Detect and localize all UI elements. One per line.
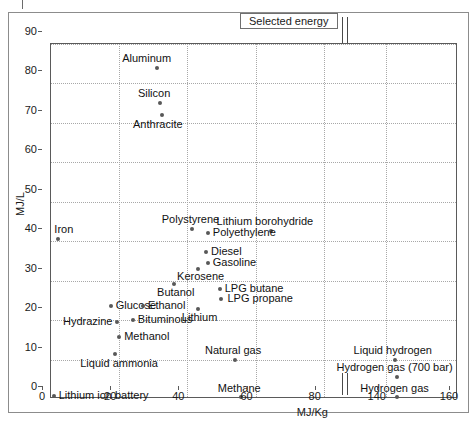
data-point[interactable] (113, 352, 117, 356)
y-axis-label: MJ/L (14, 193, 26, 217)
x-tick-mark (178, 386, 179, 390)
y-tick-label: 20 (11, 302, 37, 313)
x-tick-mark (42, 386, 43, 390)
data-point-label: Gasoline (213, 257, 256, 268)
data-point[interactable] (117, 335, 121, 339)
data-point-label: LPG propane (227, 293, 292, 304)
data-point-label: Silicon (138, 88, 170, 99)
x-tick-label: 60 (232, 391, 262, 402)
y-tick-mark (38, 347, 42, 348)
y-tick-label: 60 (11, 144, 37, 155)
data-point-label: Iron (54, 224, 73, 235)
y-tick-label: 80 (11, 65, 37, 76)
x-tick-label: 20 (95, 391, 125, 402)
y-tick-mark (38, 189, 42, 190)
x-tick-mark (315, 386, 316, 390)
axis-break-mark-top (342, 17, 343, 43)
data-point[interactable] (219, 297, 223, 301)
chart-page: AluminumSiliconAnthraciteIronPolystyrene… (0, 0, 476, 433)
gridline-horizontal (51, 123, 456, 124)
data-point-label: Polyethylene (213, 227, 276, 238)
data-point-label: Hydrazine (51, 316, 112, 327)
data-point[interactable] (160, 113, 164, 117)
data-point-label: Butanol (157, 287, 194, 298)
gridline-vertical (119, 44, 120, 397)
x-tick-label: 140 (362, 391, 392, 402)
figure-frame: AluminumSiliconAnthraciteIronPolystyrene… (8, 12, 469, 413)
data-point-label: Methanol (124, 331, 169, 342)
axis-break-mark (347, 373, 348, 395)
y-tick-mark (38, 70, 42, 71)
x-tick-mark (110, 386, 111, 390)
data-point-label: Liquid ammonia (80, 358, 158, 369)
gridline-horizontal (51, 162, 456, 163)
axis-break-mark-top (347, 17, 348, 43)
y-tick-mark (38, 110, 42, 111)
data-point-label: Bituminous (138, 314, 192, 325)
data-point[interactable] (131, 318, 135, 322)
gridline-horizontal (51, 44, 456, 45)
y-tick-mark (38, 149, 42, 150)
data-point[interactable] (206, 231, 210, 235)
y-tick-label: 30 (11, 263, 37, 274)
axis-break-mark (342, 373, 343, 395)
x-tick-label: 0 (27, 391, 57, 402)
data-point-label: Anthracite (133, 119, 183, 130)
data-point[interactable] (218, 287, 222, 291)
x-axis-label: MJ/Kg (297, 406, 328, 418)
crop-tick-mark (22, 0, 23, 9)
data-point[interactable] (155, 66, 159, 70)
y-tick-label: 10 (11, 342, 37, 353)
data-point-label: Ethanol (148, 300, 185, 311)
data-point[interactable] (395, 375, 399, 379)
x-tick-label: 160 (434, 391, 464, 402)
x-tick-label: 80 (300, 391, 330, 402)
data-point-label: Polystyrene (162, 214, 219, 225)
y-tick-mark (38, 31, 42, 32)
x-tick-mark (449, 386, 450, 390)
data-point-label: Lithium borohydride (217, 216, 314, 227)
x-tick-mark (377, 386, 378, 390)
data-point-label: Natural gas (205, 345, 261, 356)
gridline-vertical (324, 44, 325, 397)
data-point[interactable] (190, 227, 194, 231)
gridline-horizontal (51, 83, 456, 84)
y-tick-label: 70 (11, 105, 37, 116)
data-point[interactable] (233, 358, 237, 362)
data-point[interactable] (109, 304, 113, 308)
data-point[interactable] (158, 101, 162, 105)
gridline-horizontal (51, 241, 456, 242)
x-tick-mark (247, 386, 248, 390)
chart-title-box: Selected energy (240, 13, 338, 29)
y-tick-mark (38, 307, 42, 308)
data-point[interactable] (204, 250, 208, 254)
data-point-label: Liquid hydrogen (354, 345, 432, 356)
data-point[interactable] (206, 261, 210, 265)
gridline-horizontal (51, 202, 456, 203)
data-point[interactable] (395, 395, 399, 399)
data-point-label: Aluminum (122, 53, 171, 64)
data-point[interactable] (141, 304, 145, 308)
y-tick-label: 40 (11, 223, 37, 234)
y-tick-label: 90 (11, 26, 37, 37)
plot-area: AluminumSiliconAnthraciteIronPolystyrene… (50, 43, 457, 398)
data-point-label: Kerosene (177, 271, 224, 282)
data-point-label: Hydrogen gas (700 bar) (336, 362, 452, 373)
y-tick-mark (38, 228, 42, 229)
x-tick-label: 40 (163, 391, 193, 402)
y-tick-mark (38, 268, 42, 269)
